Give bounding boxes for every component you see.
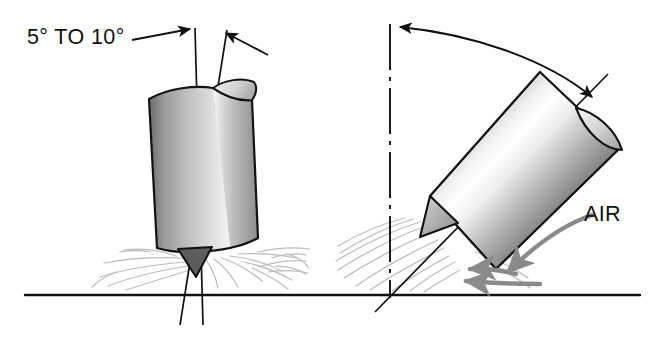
right-cylinder-body [430,72,620,269]
left-angle-leader-arrows [132,29,268,55]
technical-illustration-figure: 5° TO 10° [0,0,660,337]
illustration-canvas: 5° TO 10° [0,0,660,337]
leader-arrow-to-axis-line [226,33,268,55]
leader-arrow-to-vertical-line [132,29,190,40]
air-label: AIR [584,202,621,226]
air-ground-arrow-lower [466,281,540,284]
right-angle-arc-arrow [400,27,592,97]
angle-arc-double-arrow [400,27,592,97]
angle-range-label: 5° TO 10° [27,25,125,49]
right-nozzle-cylinder [420,72,622,269]
left-nozzle-cylinder [149,80,258,277]
